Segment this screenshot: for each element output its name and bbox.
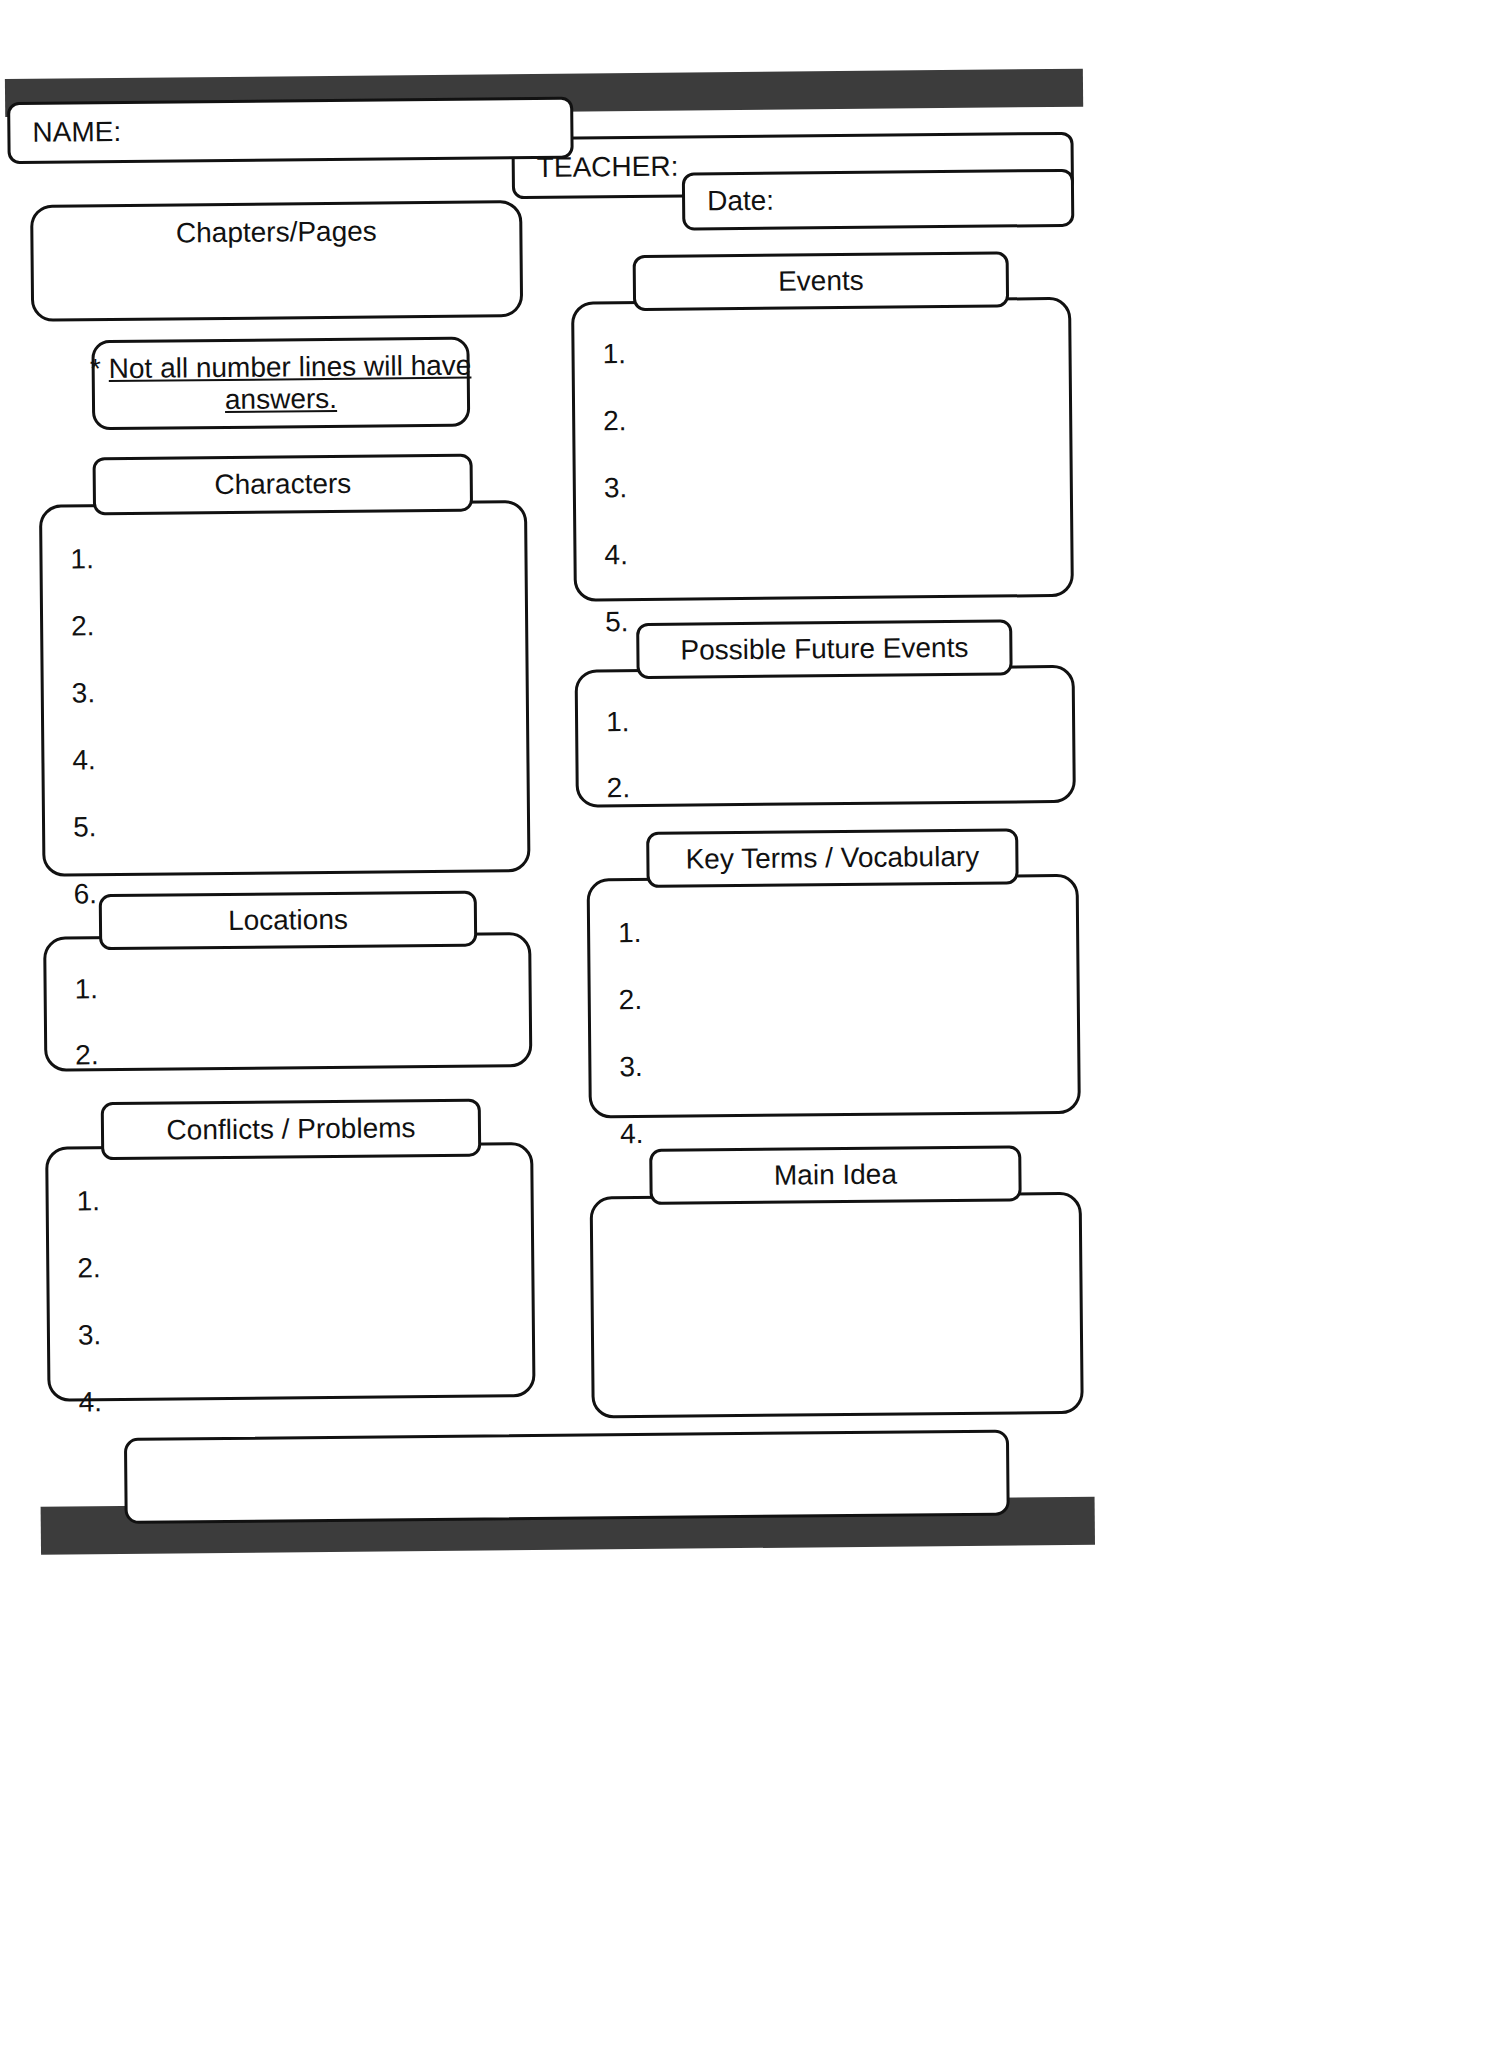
- date-field[interactable]: Date:: [682, 169, 1075, 231]
- list-item: 1.: [74, 971, 508, 1003]
- note-line-1: * Not all number lines will have: [90, 350, 472, 386]
- key-terms-title-tab: Key Terms / Vocabulary: [646, 828, 1019, 888]
- conflicts-box[interactable]: 1. 2. 3. 4.: [45, 1142, 535, 1402]
- locations-title-tab: Locations: [99, 891, 478, 951]
- number-lines-note: * Not all number lines will have answers…: [91, 337, 470, 431]
- locations-list: 1. 2.: [74, 961, 509, 1058]
- events-box[interactable]: 1. 2. 3. 4. 5.: [571, 297, 1074, 602]
- list-item: 4.: [620, 1116, 1058, 1148]
- events-list: 1. 2. 3. 4. 5.: [602, 326, 1050, 588]
- conflicts-label: Conflicts / Problems: [166, 1112, 415, 1146]
- list-item: 2.: [71, 608, 505, 640]
- conflicts-title-tab: Conflicts / Problems: [101, 1099, 482, 1161]
- characters-list: 1. 2. 3. 4. 5. 6.: [70, 529, 507, 863]
- list-item: 3.: [604, 470, 1050, 502]
- future-events-title-tab: Possible Future Events: [636, 619, 1013, 679]
- main-idea-title-tab: Main Idea: [649, 1145, 1022, 1205]
- list-item: 3.: [78, 1317, 512, 1349]
- chapters-pages-title: Chapters/Pages: [30, 200, 523, 265]
- key-terms-box[interactable]: 1. 2. 3. 4.: [587, 874, 1081, 1119]
- list-item: 3.: [619, 1049, 1057, 1081]
- future-events-box[interactable]: 1. 2.: [575, 665, 1076, 808]
- list-item: 2.: [603, 403, 1049, 435]
- characters-box[interactable]: 1. 2. 3. 4. 5. 6.: [39, 500, 531, 877]
- note-line-2: answers.: [225, 383, 337, 416]
- main-idea-label: Main Idea: [774, 1159, 897, 1192]
- list-item: 5.: [73, 809, 507, 841]
- list-item: 2.: [619, 982, 1057, 1014]
- date-label: Date:: [707, 185, 774, 218]
- list-item: 1.: [606, 704, 1052, 736]
- events-title-tab: Events: [633, 251, 1010, 311]
- list-item: 2.: [77, 1250, 511, 1282]
- chapters-pages-label: Chapters/Pages: [176, 216, 377, 250]
- list-item: 1.: [70, 541, 504, 573]
- list-item: 4.: [78, 1384, 512, 1416]
- list-item: 2.: [607, 770, 1053, 802]
- footer-note-box[interactable]: [124, 1429, 1010, 1523]
- locations-label: Locations: [228, 904, 348, 937]
- list-item: 4.: [604, 537, 1050, 569]
- future-events-list: 1. 2.: [606, 694, 1053, 794]
- key-terms-label: Key Terms / Vocabulary: [685, 841, 979, 876]
- characters-title-tab: Characters: [93, 454, 474, 516]
- key-terms-list: 1. 2. 3. 4.: [618, 903, 1058, 1105]
- list-item: 1.: [602, 336, 1048, 368]
- list-item: 1.: [77, 1183, 511, 1215]
- main-idea-box[interactable]: [590, 1192, 1084, 1419]
- events-label: Events: [778, 265, 864, 298]
- list-item: 4.: [72, 742, 506, 774]
- worksheet-sheet: NAME: TEACHER: Date: Chapters/Pages * No…: [0, 0, 1493, 2050]
- future-events-label: Possible Future Events: [680, 632, 968, 667]
- list-item: 3.: [72, 675, 506, 707]
- locations-box[interactable]: 1. 2.: [43, 932, 532, 1072]
- list-item: 2.: [75, 1037, 509, 1069]
- characters-label: Characters: [214, 468, 351, 501]
- conflicts-list: 1. 2. 3. 4.: [76, 1171, 512, 1388]
- list-item: 1.: [618, 915, 1056, 947]
- name-label: NAME:: [32, 116, 121, 149]
- name-field[interactable]: NAME:: [7, 97, 574, 164]
